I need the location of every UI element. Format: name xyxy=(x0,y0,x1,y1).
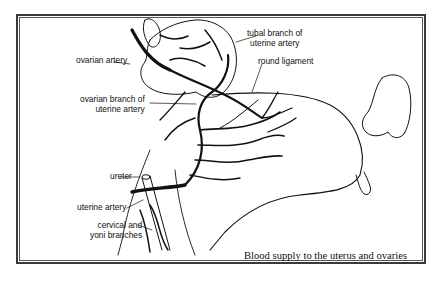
label-ureter: ureter xyxy=(110,172,132,182)
label-cervical-line2: yoni branches xyxy=(90,231,142,241)
label-ovarian-branch-line2: uterine artery xyxy=(80,105,145,115)
uterus-ovaries-illustration xyxy=(0,0,439,284)
label-tubal-branch: tubal branch of uterine artery xyxy=(247,29,302,48)
diagram-caption: Blood supply to the uterus and ovaries xyxy=(244,250,407,261)
label-ovarian-artery: ovarian artery xyxy=(76,56,127,66)
label-cervical-yoni-branches: cervical and yoni branches xyxy=(90,221,142,240)
label-tubal-branch-line2: uterine artery xyxy=(247,39,302,49)
label-uterine-artery: uterine artery xyxy=(77,203,126,213)
label-ovarian-branch: ovarian branch of uterine artery xyxy=(80,95,145,114)
label-round-ligament: round ligament xyxy=(258,57,313,67)
